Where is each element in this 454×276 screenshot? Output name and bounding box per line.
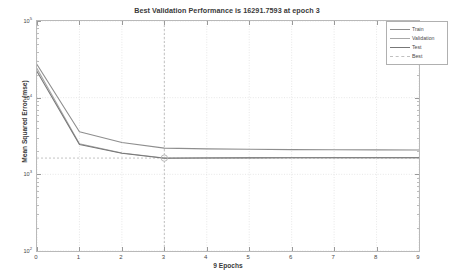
y-tick-label: 104 (2, 93, 32, 101)
y-minor-tick (37, 75, 39, 76)
y-tick-label: 102 (2, 246, 32, 254)
y-minor-tick-right (417, 101, 419, 102)
y-tick (37, 251, 41, 252)
y-tick (37, 174, 41, 175)
y-minor-tick (37, 61, 39, 62)
x-tick (122, 247, 123, 251)
y-minor-tick (37, 205, 39, 206)
y-tick-right (415, 251, 419, 252)
chart-title: Best Validation Performance is 16291.759… (0, 6, 454, 15)
x-tick (164, 247, 165, 251)
legend-label: Validation (412, 36, 434, 41)
y-tick-right (415, 98, 419, 99)
y-minor-tick-right (417, 186, 419, 187)
x-tick-top (377, 21, 378, 25)
x-tick (207, 247, 208, 251)
x-tick-label: 8 (374, 254, 377, 260)
y-minor-tick-right (417, 151, 419, 152)
x-tick-label: 0 (34, 254, 37, 260)
y-minor-tick (37, 33, 39, 34)
y-minor-tick (37, 178, 39, 179)
x-tick-label: 3 (162, 254, 165, 260)
legend-label: Test (412, 45, 422, 50)
x-tick-label: 1 (77, 254, 80, 260)
chart-legend: TrainValidationTestBest (386, 21, 448, 65)
x-tick-top (334, 21, 335, 25)
x-tick-top (122, 21, 123, 25)
y-tick (37, 21, 41, 22)
plot-area (36, 20, 420, 252)
y-minor-tick (37, 25, 39, 26)
y-minor-tick (37, 110, 39, 111)
y-minor-tick (37, 38, 39, 39)
y-minor-tick (37, 128, 39, 129)
y-minor-tick (37, 115, 39, 116)
y-minor-tick-right (417, 110, 419, 111)
y-tick (37, 98, 41, 99)
y-minor-tick (37, 214, 39, 215)
y-minor-tick (37, 186, 39, 187)
x-tick-label: 2 (119, 254, 122, 260)
y-minor-tick-right (417, 214, 419, 215)
y-minor-tick (37, 52, 39, 53)
y-minor-tick (37, 138, 39, 139)
y-minor-tick (37, 228, 39, 229)
y-minor-tick (37, 191, 39, 192)
x-tick (249, 247, 250, 251)
y-minor-tick (37, 197, 39, 198)
y-minor-tick (37, 28, 39, 29)
x-tick (419, 247, 420, 251)
x-tick-top (207, 21, 208, 25)
x-tick (79, 247, 80, 251)
y-minor-tick (37, 121, 39, 122)
y-minor-tick (37, 101, 39, 102)
y-minor-tick (37, 44, 39, 45)
x-tick-top (79, 21, 80, 25)
legend-label: Train (412, 27, 424, 32)
y-minor-tick-right (417, 197, 419, 198)
x-tick (377, 247, 378, 251)
y-tick-right (415, 174, 419, 175)
legend-swatch-validation (390, 38, 410, 39)
y-minor-tick-right (417, 205, 419, 206)
y-minor-tick-right (417, 105, 419, 106)
y-minor-tick-right (417, 178, 419, 179)
y-minor-tick (37, 151, 39, 152)
x-tick-label: 4 (204, 254, 207, 260)
legend-swatch-test (390, 47, 410, 48)
y-minor-tick-right (417, 191, 419, 192)
y-minor-tick (37, 105, 39, 106)
y-minor-tick-right (417, 75, 419, 76)
x-tick-label: 5 (247, 254, 250, 260)
y-minor-tick (37, 182, 39, 183)
x-tick (292, 247, 293, 251)
x-tick-label: 6 (289, 254, 292, 260)
legend-item-best[interactable]: Best (390, 52, 445, 61)
y-minor-tick-right (417, 228, 419, 229)
y-minor-tick-right (417, 121, 419, 122)
x-tick-top (292, 21, 293, 25)
legend-swatch-train (390, 29, 410, 30)
x-tick-top (164, 21, 165, 25)
y-minor-tick-right (417, 115, 419, 116)
y-axis-title: Mean Squared Error (mse) (21, 52, 28, 192)
y-minor-tick-right (417, 182, 419, 183)
legend-item-validation[interactable]: Validation (390, 34, 445, 43)
legend-label: Best (412, 54, 422, 59)
y-minor-tick-right (417, 138, 419, 139)
legend-swatch-best (390, 56, 410, 57)
legend-item-test[interactable]: Test (390, 43, 445, 52)
chart-figure: Best Validation Performance is 16291.759… (0, 0, 454, 276)
x-tick-label: 9 (416, 254, 419, 260)
x-axis-title: 9 Epochs (36, 262, 420, 269)
legend-item-train[interactable]: Train (390, 25, 445, 34)
x-tick (334, 247, 335, 251)
series-curves (37, 21, 419, 251)
y-tick-label: 105 (2, 16, 32, 24)
y-tick-label: 103 (2, 169, 32, 177)
y-minor-tick-right (417, 128, 419, 129)
x-tick-top (249, 21, 250, 25)
x-tick-label: 7 (331, 254, 334, 260)
